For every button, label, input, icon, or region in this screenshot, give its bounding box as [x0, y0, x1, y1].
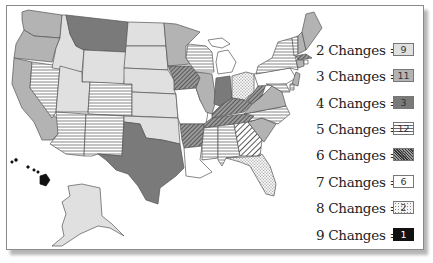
legend-row-9: 9 Changes = 1 [316, 226, 390, 244]
legend-swatch-dark-gray: 3 [393, 96, 414, 109]
legend-row-7: 7 Changes = 6 [316, 173, 390, 191]
state-ar [180, 124, 204, 148]
state-hi [11, 159, 50, 186]
legend-label: 8 Changes = [316, 200, 390, 216]
legend-row-8: 8 Changes = 2 [316, 199, 390, 217]
state-ks [132, 92, 178, 118]
legend-swatch-medium-gray: 11 [393, 69, 414, 82]
state-ma [296, 54, 312, 60]
legend-swatch-horizontal-lines: 12 [393, 122, 414, 135]
legend-label: 3 Changes = [316, 68, 390, 84]
legend-swatch-diagonal: 6 [393, 148, 414, 161]
legend-row-4: 4 Changes = 3 [316, 94, 390, 112]
legend-label: 2 Changes = [316, 42, 390, 58]
state-co [88, 82, 132, 116]
state-fl [226, 154, 276, 196]
legend-row-5: 5 Changes = 12 [316, 120, 390, 138]
legend-label: 4 Changes = [316, 95, 390, 111]
legend-row-3: 3 Changes = 11 [316, 67, 390, 85]
legend-swatch-light-gray: 9 [393, 43, 414, 56]
state-wy [82, 50, 126, 84]
state-ne [124, 68, 176, 94]
state-ak [52, 184, 124, 246]
legend-label: 5 Changes = [316, 121, 390, 137]
state-ny [256, 38, 298, 74]
state-nd [126, 22, 166, 46]
state-ms [202, 126, 218, 160]
legend-swatch-white: 6 [393, 175, 414, 188]
state-sd [124, 46, 168, 70]
legend-row-2: 2 Changes = 9 [316, 41, 390, 59]
state-nm [84, 114, 124, 156]
legend-swatch-dotted: 2 [393, 201, 414, 214]
legend-label: 6 Changes = [316, 147, 390, 163]
state-ri [304, 60, 308, 64]
legend-row-6: 6 Changes = 6 [316, 146, 390, 164]
legend-label: 9 Changes = [316, 227, 390, 243]
legend-swatch-black: 1 [393, 228, 414, 241]
state-de [290, 84, 294, 90]
legend-label: 7 Changes = [316, 174, 390, 190]
